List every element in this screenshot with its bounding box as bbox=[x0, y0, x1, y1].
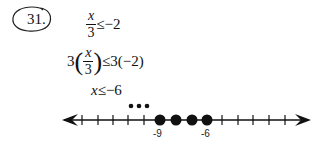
continuation-dots-icon bbox=[129, 104, 150, 109]
point-neg9 bbox=[155, 115, 166, 126]
point-neg6 bbox=[202, 115, 213, 126]
point-neg7 bbox=[187, 115, 198, 126]
point-neg8 bbox=[171, 115, 182, 126]
number-line bbox=[0, 0, 331, 147]
tick-label-neg6: -6 bbox=[201, 128, 210, 139]
tick-label-neg9: -9 bbox=[153, 128, 162, 139]
